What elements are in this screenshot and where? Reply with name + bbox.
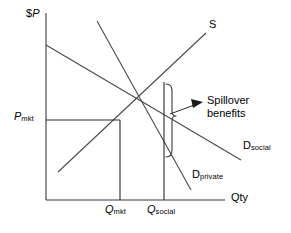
demand-private-letter: D: [192, 168, 200, 180]
price-mkt-label: Pmkt: [14, 111, 34, 123]
spillover-arrow-head: [191, 99, 203, 108]
qty-social-label: Qsocial: [147, 204, 175, 216]
demand-social-letter: D: [243, 139, 251, 151]
supply-curve: [58, 33, 206, 172]
price-mkt-subscript: mkt: [21, 114, 33, 123]
qty-mkt-subscript: mkt: [114, 207, 126, 216]
y-axis-label: $P: [26, 8, 39, 20]
spillover-benefits-diagram: $P Qty S Dsocial Dprivate Pmkt Qmkt Qsoc…: [0, 0, 291, 233]
demand-private-curve: [97, 21, 191, 190]
demand-private-curve-label: Dprivate: [192, 169, 223, 181]
x-axis-label: Qty: [231, 192, 248, 204]
spillover-annotation-line-2: benefits: [207, 107, 249, 120]
qty-mkt-letter: Q: [105, 203, 114, 215]
demand-social-subscript: social: [251, 143, 271, 152]
qty-mkt-label: Qmkt: [105, 204, 126, 216]
supply-curve-label: S: [209, 19, 216, 31]
demand-social-curve-label: Dsocial: [243, 140, 271, 152]
demand-private-subscript: private: [200, 172, 223, 181]
y-axis-variable: P: [32, 7, 39, 19]
spillover-annotation-line-1: Spillover: [207, 94, 249, 107]
qty-social-subscript: social: [156, 207, 176, 216]
qty-social-letter: Q: [147, 203, 156, 215]
spillover-benefits-annotation: Spillover benefits: [207, 94, 249, 119]
